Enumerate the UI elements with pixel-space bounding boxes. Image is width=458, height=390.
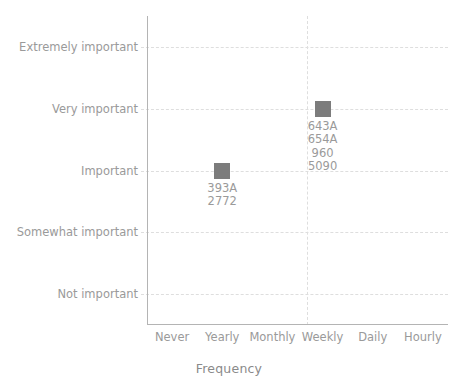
gridline-horizontal <box>141 47 448 48</box>
data-point-labels: 643A654A9605090 <box>308 120 338 174</box>
y-axis-line <box>147 16 148 325</box>
gridline-horizontal <box>141 294 448 295</box>
plot-area: Not importantSomewhat importantImportant… <box>147 16 448 325</box>
x-tick-label: Weekly <box>302 330 344 344</box>
x-tick-label: Yearly <box>205 330 239 344</box>
scatter-chart: Importance Frequency Not importantSomewh… <box>0 0 458 390</box>
y-tick-label: Important <box>81 164 138 178</box>
x-axis-line <box>147 324 448 325</box>
data-point-label: 643A <box>308 120 338 134</box>
data-point-label: 654A <box>308 133 338 147</box>
data-point-label: 960 <box>308 147 338 161</box>
y-tick-label: Not important <box>57 287 138 301</box>
gridline-horizontal <box>141 232 448 233</box>
x-tick-label: Never <box>155 330 189 344</box>
data-point-label: 393A <box>207 182 237 196</box>
gridline-horizontal <box>141 171 448 172</box>
data-point-marker[interactable] <box>214 163 230 179</box>
y-tick-label: Extremely important <box>19 40 138 54</box>
x-tick-label: Hourly <box>404 330 442 344</box>
y-tick-label: Somewhat important <box>17 225 138 239</box>
x-axis-title: Frequency <box>0 361 458 376</box>
data-point-label: 2772 <box>207 195 237 209</box>
y-tick-label: Very important <box>52 102 138 116</box>
data-point-label: 5090 <box>308 160 338 174</box>
x-tick-label: Monthly <box>249 330 295 344</box>
data-point-labels: 393A2772 <box>207 182 237 209</box>
gridline-horizontal <box>141 109 448 110</box>
data-point-marker[interactable] <box>315 101 331 117</box>
x-tick-label: Daily <box>358 330 387 344</box>
